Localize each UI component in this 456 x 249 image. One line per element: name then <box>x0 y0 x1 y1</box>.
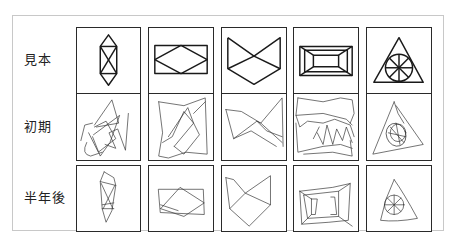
six-months-drawing-5 <box>367 166 431 231</box>
cell-initial-triangle-wheel <box>366 93 432 161</box>
initial-drawing-1 <box>77 94 140 160</box>
initial-drawing-2 <box>149 94 213 160</box>
cell-initial-bowtie <box>221 93 287 161</box>
bowtie-diamond-figure <box>222 28 286 93</box>
cell-model-diamond-rect <box>148 27 214 94</box>
cell-initial-diamond-rect <box>148 93 214 161</box>
cell-six-months-diamond-rect <box>148 165 214 232</box>
initial-drawing-3 <box>222 94 286 160</box>
cell-six-months-nested-rect <box>293 165 359 232</box>
initial-drawing-5 <box>367 94 431 160</box>
cell-model-hexagon <box>76 27 141 94</box>
cell-initial-hexagon <box>76 93 141 161</box>
six-months-drawing-4 <box>294 166 358 231</box>
initial-drawing-4 <box>294 94 358 160</box>
cell-six-months-hexagon <box>76 165 141 232</box>
cell-model-nested-rect <box>293 27 359 94</box>
cell-six-months-bowtie <box>221 165 287 232</box>
row-label-model: 見本 <box>24 52 52 68</box>
six-months-drawing-1 <box>77 166 140 231</box>
row-label-initial: 初期 <box>24 119 52 135</box>
triangle-wheel-figure <box>367 28 431 93</box>
cell-model-triangle-wheel <box>366 27 432 94</box>
cell-initial-nested-rect <box>293 93 359 161</box>
six-months-drawing-2 <box>149 166 213 231</box>
rect-diamond-figure <box>149 28 213 93</box>
six-months-drawing-3 <box>222 166 286 231</box>
nested-rectangles-figure <box>294 28 358 93</box>
row-label-six-months: 半年後 <box>24 190 66 206</box>
cell-six-months-triangle-wheel <box>366 165 432 232</box>
cell-model-bowtie <box>221 27 287 94</box>
hexagon-x-figure <box>77 28 140 93</box>
